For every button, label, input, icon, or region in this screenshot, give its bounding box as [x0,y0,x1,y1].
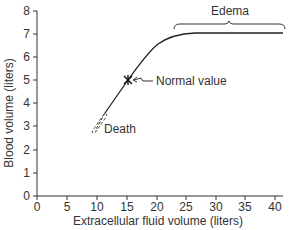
edema-brace [174,21,285,29]
y-tick-7: 7 [23,27,30,41]
y-tick-5: 5 [23,73,30,87]
y-tick-6: 6 [23,50,30,64]
x-tick-10: 10 [90,200,104,214]
x-tick-5: 5 [64,200,71,214]
x-axis-title: Extracellular fluid volume (liters) [73,214,243,228]
y-ticks [33,11,37,196]
normal-value-label: Normal value [156,74,227,88]
y-tick-0: 0 [23,189,30,203]
y-tick-8: 8 [23,4,30,18]
chart: 0 1 2 3 4 5 6 7 8 0 5 10 15 20 25 30 35 … [0,0,293,230]
edema-label: Edema [211,4,249,18]
y-tick-2: 2 [23,143,30,157]
x-tick-15: 15 [120,200,134,214]
death-label: Death [104,122,136,136]
blood-volume-curve [105,33,283,113]
x-tick-25: 25 [179,200,193,214]
x-tick-0: 0 [34,200,41,214]
x-tick-30: 30 [209,200,223,214]
y-axis-title: Blood volume (liters) [2,58,16,167]
y-tick-labels: 0 1 2 3 4 5 6 7 8 [23,4,30,203]
y-tick-3: 3 [23,119,30,133]
x-tick-40: 40 [268,200,282,214]
normal-value-arrow-icon [133,77,153,82]
x-tick-labels: 0 5 10 15 20 25 30 35 40 [34,200,282,214]
normal-value-marker-icon [124,75,132,85]
x-tick-35: 35 [238,200,252,214]
x-tick-20: 20 [150,200,164,214]
y-tick-4: 4 [23,96,30,110]
y-tick-1: 1 [23,166,30,180]
